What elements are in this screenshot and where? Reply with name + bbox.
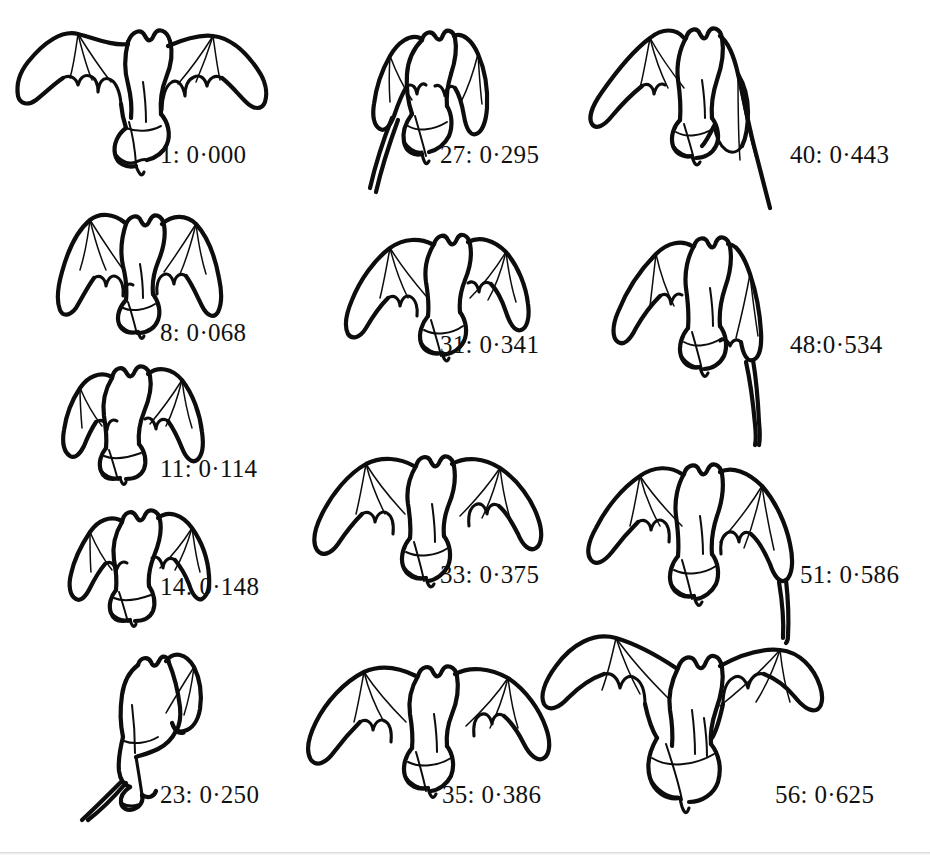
bat-drawing-frame-51 (578, 458, 818, 643)
frame-label-48: 48:0·534 (790, 332, 883, 357)
frame-label-27: 27: 0·295 (440, 142, 539, 167)
frame-label-40: 40: 0·443 (790, 142, 889, 167)
frame-label-8: 8: 0·068 (160, 320, 246, 345)
bat-drawing-frame-14 (62, 500, 262, 630)
frame-label-31: 31: 0·341 (440, 332, 539, 357)
frame-label-35: 35: 0·386 (442, 782, 541, 807)
figure-canvas: 1: 0·000 (0, 0, 930, 855)
frame-label-33: 33: 0·375 (440, 562, 539, 587)
bat-drawing-frame-27 (350, 22, 530, 202)
bat-drawing-frame-40 (588, 22, 818, 217)
frame-label-23: 23: 0·250 (160, 782, 259, 807)
frame-label-14: 14: 0·148 (160, 574, 259, 599)
frame-label-1: 1: 0·000 (160, 142, 246, 167)
frame-label-56: 56: 0·625 (775, 782, 874, 807)
frame-label-11: 11: 0·114 (160, 456, 257, 481)
bat-drawing-frame-48 (598, 230, 813, 445)
frame-label-51: 51: 0·586 (800, 562, 899, 587)
